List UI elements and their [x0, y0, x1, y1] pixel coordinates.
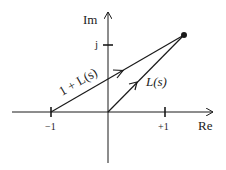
- axis-label-re: Re: [198, 118, 213, 133]
- tick-label-minus-one: −1: [45, 121, 56, 132]
- axis-label-im: Im: [83, 12, 97, 27]
- complex-plane-diagram: −1 +1 j Im Re 1 + L(s) L(s): [0, 0, 226, 170]
- label-L: L(s): [145, 74, 167, 89]
- label-one-plus-L-text: 1 + L(s): [56, 65, 100, 99]
- tick-label-j: j: [94, 38, 98, 50]
- tick-label-plus-one: +1: [158, 121, 169, 132]
- label-one-plus-L: 1 + L(s): [56, 65, 100, 99]
- endpoint-dot: [181, 32, 187, 38]
